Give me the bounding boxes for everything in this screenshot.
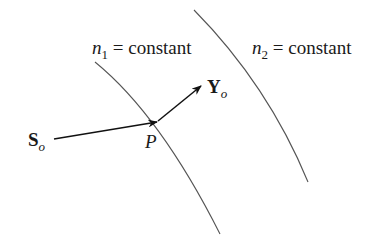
n1-label-sub: 1: [102, 47, 109, 62]
diagram-canvas: n1 = constant n2 = constant Yo So P: [0, 0, 383, 244]
outgoing-vector-label: Yo: [207, 77, 227, 96]
n2-label-rest: = constant: [268, 37, 352, 58]
n1-label: n1 = constant: [92, 38, 192, 57]
outgoing-vector-var: Y: [207, 76, 221, 97]
n1-label-rest: = constant: [108, 37, 192, 58]
incident-vector-label: So: [28, 130, 45, 149]
incident-vector-arrow: [54, 122, 157, 139]
point-p-label: P: [145, 132, 157, 151]
n1-label-var: n: [92, 37, 102, 58]
n1-surface-curve: [95, 62, 220, 234]
n2-label-var: n: [252, 37, 262, 58]
incident-vector-var: S: [28, 129, 39, 150]
n2-label: n2 = constant: [252, 38, 352, 57]
n2-label-sub: 2: [262, 47, 269, 62]
outgoing-vector-sub: o: [221, 86, 228, 101]
incident-vector-sub: o: [39, 139, 46, 154]
outgoing-vector-arrow: [158, 86, 201, 121]
